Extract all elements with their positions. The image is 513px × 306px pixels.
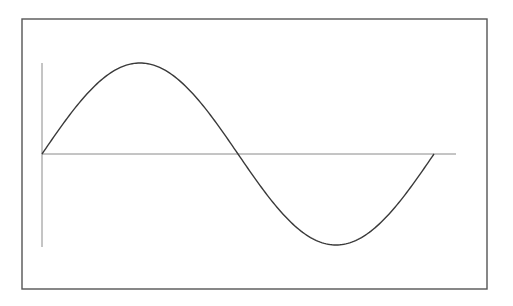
sine-wave-chart [0, 0, 513, 306]
